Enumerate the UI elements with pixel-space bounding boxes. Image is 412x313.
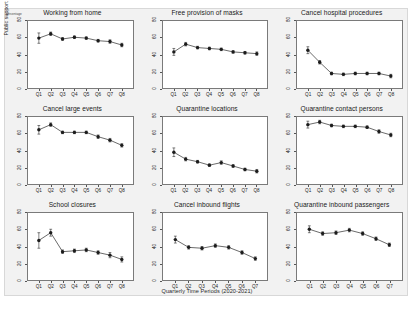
data-point-marker: [49, 231, 52, 234]
chart-panel: Quarantine locations020406080Q1Q2Q3Q4Q5Q…: [140, 105, 275, 201]
data-point-marker: [73, 249, 76, 252]
data-point-marker: [187, 246, 190, 249]
data-point-marker: [342, 73, 345, 76]
data-point-marker: [389, 74, 392, 77]
data-point-marker: [73, 36, 76, 39]
data-point-marker: [120, 43, 123, 46]
data-point-marker: [61, 131, 64, 134]
data-point-marker: [378, 130, 381, 133]
data-point-marker: [85, 248, 88, 251]
chart-panel: Cancel large events020406080Q1Q2Q3Q4Q5Q6…: [5, 105, 140, 201]
series-layer: [140, 201, 275, 297]
data-point-marker: [120, 144, 123, 147]
data-point-marker: [335, 231, 338, 234]
chart-panel: Quarantine contact persons020406080Q1Q2Q…: [274, 105, 409, 201]
chart-panel: Cancel hospital procedures020406080Q1Q2Q…: [274, 9, 409, 105]
plot-frame: Public support for Covid19 policies Quar…: [4, 8, 408, 296]
data-point-marker: [207, 163, 210, 166]
data-point-marker: [184, 157, 187, 160]
data-point-marker: [172, 151, 175, 154]
data-point-marker: [366, 126, 369, 129]
data-point-marker: [318, 61, 321, 64]
data-point-marker: [318, 120, 321, 123]
data-point-marker: [61, 37, 64, 40]
data-point-marker: [108, 40, 111, 43]
data-point-marker: [308, 228, 311, 231]
data-point-marker: [243, 51, 246, 54]
data-point-marker: [37, 239, 40, 242]
data-point-marker: [306, 123, 309, 126]
data-point-marker: [361, 232, 364, 235]
series-layer: [274, 201, 409, 297]
data-point-marker: [173, 238, 176, 241]
data-point-marker: [330, 72, 333, 75]
data-point-marker: [354, 125, 357, 128]
chart-panel: School closures020406080Q1Q2Q3Q4Q5Q6Q7Q8: [5, 201, 140, 297]
data-point-marker: [366, 72, 369, 75]
data-point-marker: [389, 133, 392, 136]
data-point-marker: [375, 237, 378, 240]
data-point-marker: [321, 232, 324, 235]
series-layer: [274, 105, 409, 201]
series-layer: [5, 201, 140, 297]
series-layer: [274, 9, 409, 105]
data-point-marker: [342, 125, 345, 128]
chart-panel: Quarantine inbound passengers020406080Q1…: [274, 201, 409, 297]
data-point-marker: [378, 72, 381, 75]
series-line: [39, 125, 122, 146]
data-point-marker: [207, 47, 210, 50]
series-layer: [140, 105, 275, 201]
chart-panel: Cancel inbound flights020406080Q1Q2Q3Q4Q…: [140, 201, 275, 297]
data-point-marker: [73, 131, 76, 134]
data-point-marker: [96, 135, 99, 138]
data-point-marker: [108, 138, 111, 141]
data-point-marker: [240, 251, 243, 254]
data-point-marker: [219, 48, 222, 51]
chart-panel: Working from homepercentage020406080Q1Q2…: [5, 9, 140, 105]
series-layer: [5, 9, 140, 105]
data-point-marker: [200, 247, 203, 250]
data-point-marker: [96, 251, 99, 254]
data-point-marker: [196, 160, 199, 163]
data-point-marker: [49, 123, 52, 126]
series-layer: [140, 9, 275, 105]
data-point-marker: [348, 228, 351, 231]
data-point-marker: [219, 161, 222, 164]
data-point-marker: [253, 257, 256, 260]
data-point-marker: [49, 32, 52, 35]
data-point-marker: [108, 253, 111, 256]
data-point-marker: [255, 52, 258, 55]
data-point-marker: [120, 258, 123, 261]
data-point-marker: [231, 164, 234, 167]
data-point-marker: [227, 246, 230, 249]
data-point-marker: [243, 168, 246, 171]
data-point-marker: [172, 50, 175, 53]
data-point-marker: [96, 39, 99, 42]
data-point-marker: [184, 42, 187, 45]
data-point-marker: [61, 250, 64, 253]
chart-panel: Free provision of masks020406080Q1Q2Q3Q4…: [140, 9, 275, 105]
data-point-marker: [196, 46, 199, 49]
data-point-marker: [85, 131, 88, 134]
data-point-marker: [255, 170, 258, 173]
data-point-marker: [231, 50, 234, 53]
figure-root: Public support for Covid19 policies Quar…: [0, 0, 412, 313]
series-layer: [5, 105, 140, 201]
data-point-marker: [330, 124, 333, 127]
data-point-marker: [388, 243, 391, 246]
data-point-marker: [37, 36, 40, 39]
data-point-marker: [306, 48, 309, 51]
data-point-marker: [354, 72, 357, 75]
data-point-marker: [213, 244, 216, 247]
data-point-marker: [85, 36, 88, 39]
data-point-marker: [37, 128, 40, 131]
